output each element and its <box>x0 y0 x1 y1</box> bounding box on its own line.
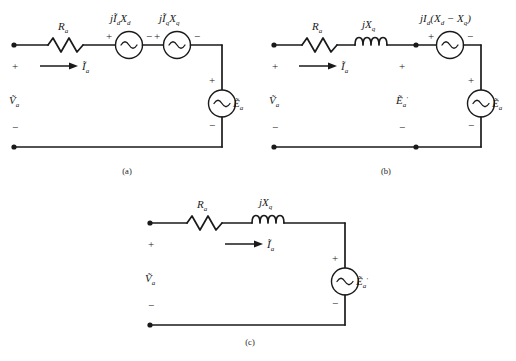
figure-root: Ra jĨdXd jĨqXq + − + − + − Ẽa + − Ṽa Ĩa … <box>0 0 516 361</box>
circuit-figure-svg: Ra jĨdXd jĨqXq + − + − + − Ẽa + − Ṽa Ĩa … <box>0 0 516 361</box>
polarity-b-eap-minus: − <box>399 121 405 133</box>
polarity-b-va-minus: − <box>272 121 278 133</box>
polarity-a-src2-minus: − <box>194 30 200 42</box>
caption-b: (b) <box>381 166 391 176</box>
polarity-b-ea-plus: + <box>468 74 474 86</box>
terminal-c-top <box>147 220 152 225</box>
polarity-c-va-minus: − <box>148 299 154 311</box>
polarity-b-src-minus: − <box>467 30 473 42</box>
terminal-b-top <box>271 42 276 47</box>
terminal-a-bottom <box>11 144 16 149</box>
polarity-a-ea-plus: + <box>209 74 215 86</box>
polarity-b-eap-plus: + <box>399 60 405 72</box>
polarity-a-ea-minus: − <box>209 119 215 131</box>
polarity-a-src1-plus: + <box>106 30 112 42</box>
junction-b-bottom <box>413 144 418 149</box>
polarity-b-ea-minus: − <box>468 119 474 131</box>
polarity-a-va-minus: − <box>12 121 18 133</box>
polarity-b-src-plus: + <box>428 30 434 42</box>
caption-c: (c) <box>245 337 255 347</box>
polarity-c-ea-plus: + <box>332 252 338 264</box>
caption-a: (a) <box>122 166 132 176</box>
polarity-b-va-plus: + <box>272 60 278 72</box>
polarity-c-va-plus: + <box>148 238 154 250</box>
polarity-a-va-plus: + <box>12 60 18 72</box>
polarity-a-src1-minus: − <box>146 30 152 42</box>
terminal-a-top <box>11 42 16 47</box>
figure-background <box>0 0 516 361</box>
polarity-a-src2-plus: + <box>154 30 160 42</box>
terminal-b-bottom <box>271 144 276 149</box>
terminal-c-bottom <box>147 322 152 327</box>
polarity-c-ea-minus: − <box>332 297 338 309</box>
